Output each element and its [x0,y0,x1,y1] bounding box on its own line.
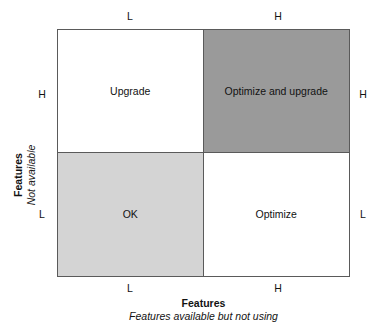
y-axis-title: Features Not available [8,120,42,230]
quadrant-bottom-right-label: Optimize [256,208,297,221]
axis-tick-right-low: L [355,208,371,220]
x-axis-title: Features Features available but not usin… [57,297,350,324]
quadrant-bottom-right: Optimize [204,153,350,276]
matrix-grid: Upgrade Optimize and upgrade OK Optimize [57,29,350,277]
y-axis-title-sub: Not available [25,145,39,206]
axis-tick-left-high: H [34,88,50,100]
quadrant-top-right: Optimize and upgrade [204,30,350,153]
quadrant-top-left-label: Upgrade [110,85,150,98]
quadrant-top-right-label: Optimize and upgrade [225,85,328,98]
axis-tick-right-high: H [355,88,371,100]
axis-tick-bottom-left: L [122,282,138,294]
y-axis-title-main: Features [12,153,25,197]
axis-tick-top-right: H [270,10,286,22]
axis-tick-bottom-right: H [270,282,286,294]
quadrant-top-left: Upgrade [58,30,204,153]
quadrant-bottom-left-label: OK [123,208,138,221]
matrix-figure: L H H L H L L H Upgrade Optimize and upg… [0,0,378,328]
quadrant-bottom-left: OK [58,153,204,276]
axis-tick-top-left: L [122,10,138,22]
x-axis-title-sub: Features available but not using [57,310,350,324]
x-axis-title-main: Features [57,297,350,310]
